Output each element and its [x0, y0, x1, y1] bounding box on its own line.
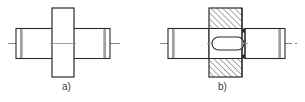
figure-b-collar-hatch-bottom	[209, 59, 242, 78]
figure-b-collar-edge-detail-bottom	[242, 55, 245, 59]
figure-a-caption: a)	[62, 81, 71, 92]
figure-b-group	[160, 8, 297, 77]
technical-drawing-canvas	[0, 0, 305, 102]
figure-b-shaft-right	[245, 29, 285, 59]
figure-b-slot	[212, 37, 244, 50]
figure-b-shaft-left	[168, 29, 209, 59]
figure-b-collar-edge-detail-top	[242, 29, 245, 33]
figure-a-shaft-left	[16, 29, 53, 59]
figure-b-caption: b)	[218, 81, 227, 92]
figure-sheet: a) b)	[0, 0, 305, 102]
figure-b-collar-hatch-top	[209, 8, 242, 29]
figure-a-collar	[52, 8, 74, 77]
figure-a-group	[8, 8, 120, 77]
figure-a-shaft-right	[74, 29, 111, 59]
